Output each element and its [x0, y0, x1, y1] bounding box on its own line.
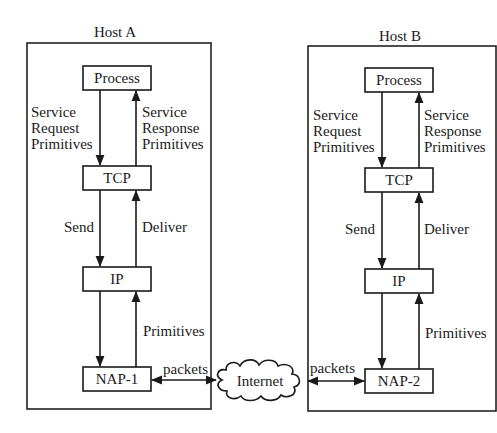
host-b-ip-box: IP [365, 269, 433, 293]
host-a-nap-label: NAP-1 [96, 371, 139, 387]
tcp-ip-diagram: Host A Process TCP IP NAP-1 Service Re [0, 0, 497, 433]
host-b-primitives-label: Primitives [425, 325, 487, 341]
host-a-send-label: Send [64, 219, 95, 235]
host-b-service-request-label: Service Request Primitives [313, 107, 375, 155]
host-a-tcp-label: TCP [103, 170, 131, 186]
host-a-ip-box: IP [83, 267, 151, 291]
host-b-service-response-label: Service Response Primitives [424, 107, 486, 155]
host-a-tcp-box: TCP [83, 166, 151, 190]
host-a-title: Host A [94, 24, 136, 40]
host-b-deliver-label: Deliver [424, 221, 469, 237]
host-b-ip-label: IP [392, 273, 405, 289]
internet-label: Internet [237, 373, 284, 389]
host-b-nap-label: NAP-2 [378, 373, 421, 389]
host-b-process-box: Process [365, 68, 433, 92]
host-b-send-label: Send [345, 221, 376, 237]
host-a-process-label: Process [94, 70, 140, 86]
host-a-ip-label: IP [110, 271, 123, 287]
host-b-tcp-label: TCP [385, 172, 413, 188]
host-a-process-box: Process [83, 66, 151, 90]
host-b-tcp-box: TCP [365, 168, 433, 192]
host-a-primitives-label: Primitives [143, 323, 205, 339]
host-a-packets-label: packets [163, 361, 208, 377]
host-a-nap-box: NAP-1 [83, 367, 151, 391]
host-b: Host B Process TCP IP NAP-2 Service Requ… [308, 28, 496, 411]
host-b-nap-box: NAP-2 [365, 369, 433, 393]
host-a-service-response-label: Service Response Primitives [142, 104, 204, 152]
host-a: Host A Process TCP IP NAP-1 Service Re [27, 24, 211, 409]
host-b-process-label: Process [376, 72, 422, 88]
host-b-packets-label: packets [310, 360, 355, 376]
host-a-deliver-label: Deliver [142, 219, 187, 235]
host-a-service-request-label: Service Request Primitives [31, 104, 93, 152]
internet-cloud: Internet [218, 360, 300, 401]
host-b-title: Host B [379, 28, 421, 44]
